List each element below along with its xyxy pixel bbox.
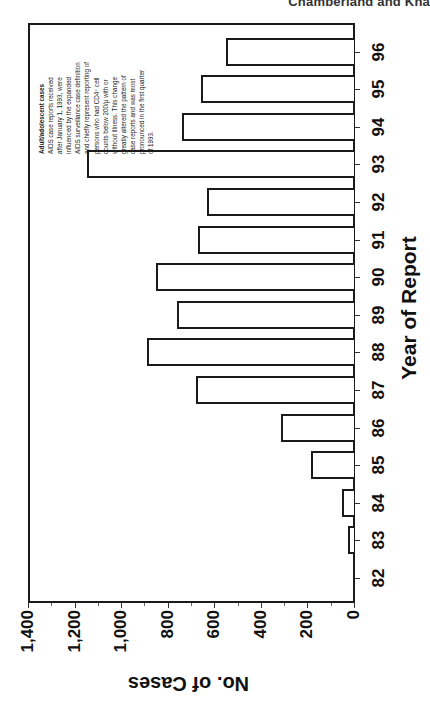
category-tick: [355, 352, 360, 353]
annotation-line: influenced by the expanded: [64, 26, 73, 154]
value-minor-tick: [144, 603, 145, 606]
category-label: 88: [369, 337, 389, 367]
value-tick: [261, 603, 262, 608]
value-tick: [28, 603, 29, 608]
value-label: 800: [158, 610, 178, 670]
category-tick: [355, 465, 360, 466]
value-minor-tick: [98, 603, 99, 606]
annotation-line: persons who had CD4⁺ cell: [92, 26, 101, 154]
running-head: Chamberland and Kha: [288, 0, 430, 9]
category-label: 86: [369, 413, 389, 443]
category-tick: [355, 503, 360, 504]
annotation-title: Adult/adolescent cases: [37, 26, 46, 154]
bar-85: [311, 451, 354, 479]
category-tick: [355, 277, 360, 278]
bar-86: [281, 414, 354, 442]
bar-94: [182, 113, 354, 141]
annotation-line: AIDS case reports received: [46, 26, 55, 154]
annotation-line: case reports and was most: [128, 26, 137, 154]
value-minor-tick: [238, 603, 239, 606]
category-label: 94: [369, 112, 389, 142]
category-tick: [355, 164, 360, 165]
y-axis-title: No. of Cases: [126, 672, 251, 695]
value-tick: [75, 603, 76, 608]
value-tick: [214, 603, 215, 608]
value-label: 1,200: [65, 610, 85, 670]
bar-90: [156, 263, 354, 291]
category-tick: [355, 127, 360, 128]
category-tick: [355, 540, 360, 541]
category-tick: [355, 390, 360, 391]
bar-88: [147, 338, 354, 366]
category-label: 96: [369, 37, 389, 67]
value-minor-tick: [191, 603, 192, 606]
value-tick: [354, 603, 355, 608]
value-label: 200: [297, 610, 317, 670]
bar-89: [177, 301, 354, 329]
category-tick: [355, 578, 360, 579]
annotation-text: Adult/adolescent cases AIDS case reports…: [37, 26, 162, 154]
value-tick: [121, 603, 122, 608]
category-label: 93: [369, 149, 389, 179]
annotation-line: AIDS surveillance case definition: [73, 26, 82, 154]
value-label: 1,000: [111, 610, 131, 670]
bar-95: [201, 75, 354, 103]
value-tick: [168, 603, 169, 608]
annotation-line: after January 1, 1993, were: [55, 26, 64, 154]
bar-83: [348, 526, 354, 554]
value-label: 400: [251, 610, 271, 670]
category-label: 85: [369, 450, 389, 480]
annotation-line: of 1993.: [146, 26, 155, 154]
category-label: 91: [369, 225, 389, 255]
category-tick: [355, 89, 360, 90]
value-label: 1,400: [18, 610, 38, 670]
annotation-line: greatly altered the pattern of: [119, 26, 128, 154]
category-label: 83: [369, 525, 389, 555]
annotation-box: Adult/adolescent cases AIDS case reports…: [37, 28, 167, 158]
category-label: 90: [369, 262, 389, 292]
category-label: 89: [369, 300, 389, 330]
bar-92: [207, 188, 354, 216]
value-label: 600: [204, 610, 224, 670]
x-axis-title: Year of Report: [397, 236, 421, 381]
bar-91: [198, 226, 354, 254]
annotation-line: counts below 200/µ with or: [101, 26, 110, 154]
bar-96: [226, 38, 354, 66]
value-minor-tick: [51, 603, 52, 606]
category-tick: [355, 428, 360, 429]
annotation-line: and chiefly represent reporting of: [82, 26, 91, 154]
annotation-line: pronounced in the first quarter: [137, 26, 146, 154]
category-label: 84: [369, 488, 389, 518]
category-label: 92: [369, 187, 389, 217]
category-tick: [355, 52, 360, 53]
category-tick: [355, 315, 360, 316]
value-minor-tick: [284, 603, 285, 606]
category-label: 95: [369, 74, 389, 104]
category-label: 87: [369, 375, 389, 405]
value-tick: [307, 603, 308, 608]
bar-84: [342, 489, 354, 517]
value-minor-tick: [331, 603, 332, 606]
category-tick: [355, 240, 360, 241]
annotation-line: without illness. This change: [110, 26, 119, 154]
category-label: 82: [369, 563, 389, 593]
category-tick: [355, 202, 360, 203]
bar-87: [196, 376, 354, 404]
value-label: 0: [344, 610, 364, 670]
